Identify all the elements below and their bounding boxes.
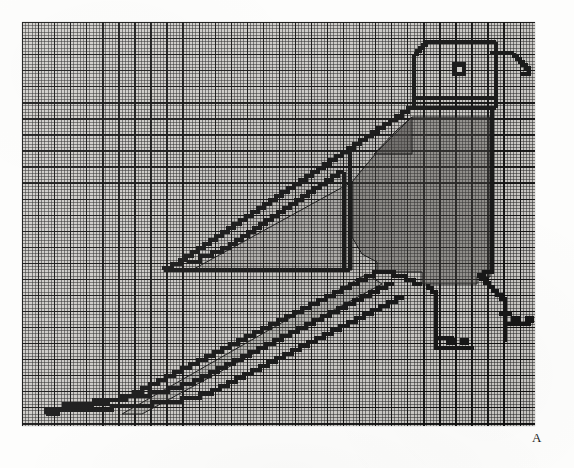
bird-drawing [22,22,535,426]
figure-root: A [0,0,574,468]
wing-shading [192,182,352,270]
legs-and-feet [428,275,534,348]
eye-icon [452,62,466,76]
figure-label: A [532,430,542,446]
graph-paper-sheet [22,22,535,426]
body-shading [352,117,490,284]
